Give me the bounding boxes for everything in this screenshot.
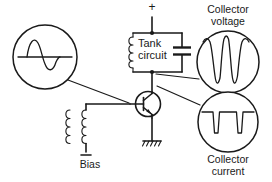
collector-voltage-label-line2: voltage <box>211 15 245 27</box>
tank-inductor-icon <box>129 33 133 72</box>
collector-current-label-line2: current <box>212 165 245 177</box>
tank-circuit-label-line1: Tank <box>138 37 161 49</box>
base-feedback-wire <box>86 104 130 110</box>
tank-circuit-label: Tank circuit <box>138 37 182 62</box>
leader-current-to-collector <box>157 86 200 105</box>
collector-voltage-scope <box>197 31 259 93</box>
supply-polarity-label: + <box>144 1 160 14</box>
collector-voltage-label: Collector voltage <box>186 4 270 28</box>
collector-current-label: Collector current <box>186 154 270 178</box>
leader-sine-to-base <box>68 80 129 103</box>
ground-symbol <box>143 118 162 146</box>
bias-label: Bias <box>62 159 118 171</box>
collector-current-label-line1: Collector <box>207 153 248 165</box>
collector-current-scope <box>198 92 258 152</box>
tank-top-node <box>150 31 154 35</box>
input-sine-scope <box>13 25 77 89</box>
tank-circuit-label-line2: circuit <box>138 49 182 61</box>
collector-voltage-label-line1: Collector <box>207 3 248 15</box>
npn-transistor-symbol <box>130 92 161 119</box>
feedback-transformer-symbol <box>66 110 91 155</box>
circuit-diagram-canvas: + Tank circuit Bias Collector voltage Co… <box>0 0 272 182</box>
leader-voltage-to-collector <box>156 74 199 79</box>
